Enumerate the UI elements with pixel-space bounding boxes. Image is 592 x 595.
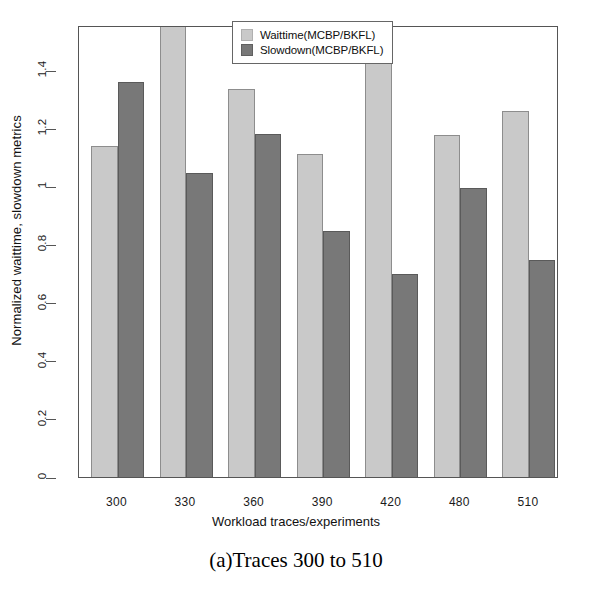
y-tick-label: 0.2	[36, 410, 48, 427]
x-tick-label-510: 510	[498, 495, 558, 509]
chart-legend: Waittime(MCBP/BKFL) Slowdown(MCBP/BKFL)	[232, 21, 393, 64]
y-axis-title: Normalized waittime, slowdown metrics	[8, 50, 24, 410]
bar-waittime-330	[160, 26, 187, 477]
y-tick-label: 0	[36, 473, 48, 480]
bar-waittime-390	[297, 154, 324, 477]
y-axis: Normalized waittime, slowdown metrics 00…	[0, 0, 78, 595]
bar-waittime-420	[365, 26, 392, 477]
y-tick-label: 1	[36, 182, 48, 189]
bar-slowdown-330	[186, 173, 213, 477]
bar-slowdown-300	[118, 82, 145, 477]
y-tick-label: 0.8	[36, 235, 48, 252]
legend-swatch-waittime-icon	[241, 29, 253, 41]
legend-label-slowdown: Slowdown(MCBP/BKFL)	[260, 44, 383, 56]
legend-item-waittime: Waittime(MCBP/BKFL)	[241, 27, 383, 42]
bar-waittime-360	[228, 89, 255, 477]
bar-slowdown-420	[392, 274, 419, 477]
y-tick-label: 0.4	[36, 351, 48, 368]
legend-label-waittime: Waittime(MCBP/BKFL)	[260, 29, 375, 41]
plot-area	[78, 26, 558, 478]
legend-item-slowdown: Slowdown(MCBP/BKFL)	[241, 42, 383, 57]
bar-slowdown-390	[323, 231, 350, 477]
bar-slowdown-510	[529, 260, 556, 477]
y-axis-title-label: Normalized waittime, slowdown metrics	[9, 115, 24, 346]
y-tick-label: 1.2	[36, 119, 48, 136]
x-tick-label-480: 480	[429, 495, 489, 509]
x-axis-title: Workload traces/experiments	[0, 514, 592, 529]
x-tick-label-330: 330	[155, 495, 215, 509]
legend-swatch-slowdown-icon	[241, 44, 253, 56]
y-tick-label: 0.6	[36, 293, 48, 310]
x-tick-label-390: 390	[292, 495, 352, 509]
x-tick-label-420: 420	[361, 495, 421, 509]
x-tick-label-300: 300	[87, 495, 147, 509]
bar-waittime-480	[434, 135, 461, 477]
figure-bar-chart: Normalized waittime, slowdown metrics 00…	[0, 0, 592, 595]
bar-waittime-510	[502, 111, 529, 477]
x-tick-label-360: 360	[224, 495, 284, 509]
bar-slowdown-360	[255, 134, 282, 477]
figure-caption: (a)Traces 300 to 510	[0, 548, 592, 573]
bar-waittime-300	[91, 146, 118, 477]
y-tick-label: 1.4	[36, 61, 48, 78]
bar-slowdown-480	[460, 188, 487, 477]
